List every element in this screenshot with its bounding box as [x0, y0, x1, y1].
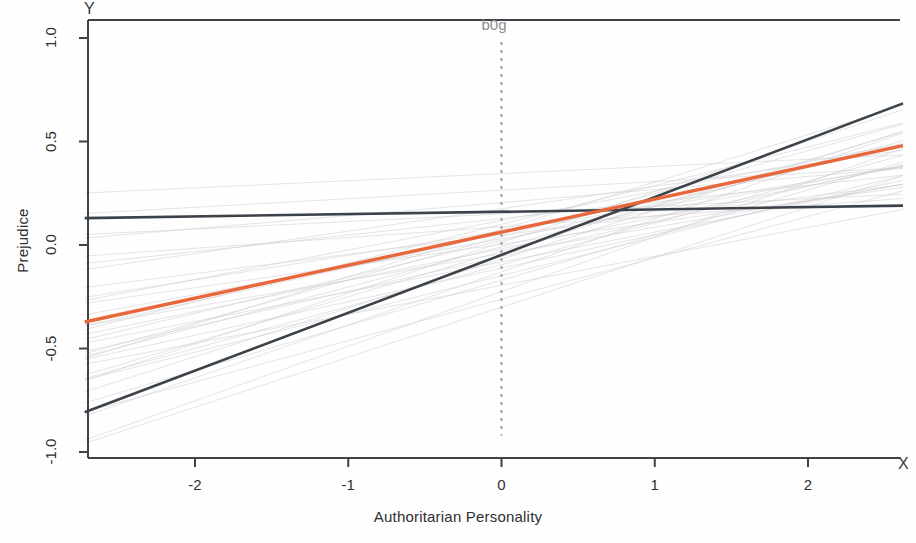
faint-group-line — [85, 166, 903, 315]
x-tick-label: -2 — [175, 476, 215, 493]
steep-group-line — [85, 103, 903, 412]
y-tick-label: 1.0 — [42, 15, 59, 61]
faint-group-line — [85, 155, 903, 378]
y-tick-label: 0.0 — [42, 222, 59, 268]
individual-group-lines — [85, 105, 903, 443]
main-regression-lines — [85, 103, 903, 412]
faint-group-line — [85, 133, 903, 416]
average-regression-line — [85, 146, 903, 322]
y-tick-label: -1.0 — [42, 429, 59, 475]
b0g-annotation-label: b0g — [482, 16, 507, 33]
faint-group-line — [85, 185, 903, 288]
y-tick-label: 0.5 — [42, 118, 59, 164]
faint-group-line — [85, 187, 903, 303]
y-axis-letter: Y — [84, 0, 95, 18]
faint-group-line — [85, 131, 903, 392]
faint-group-line — [85, 191, 903, 412]
y-axis-title: Prejudice — [14, 181, 31, 301]
x-axis-title: Authoritarian Personality — [0, 508, 916, 525]
x-tick-label: 0 — [482, 476, 522, 493]
x-tick-label: -1 — [328, 476, 368, 493]
plot-area — [0, 0, 916, 543]
faint-group-line — [85, 184, 903, 325]
regression-lines-chart: Y X Authoritarian Personality Prejudice … — [0, 0, 916, 543]
y-tick-label: -0.5 — [42, 325, 59, 371]
faint-group-line — [85, 144, 903, 301]
x-tick-label: 2 — [788, 476, 828, 493]
x-tick-label: 1 — [635, 476, 675, 493]
x-axis-letter: X — [898, 455, 909, 473]
faint-group-line — [85, 132, 903, 375]
